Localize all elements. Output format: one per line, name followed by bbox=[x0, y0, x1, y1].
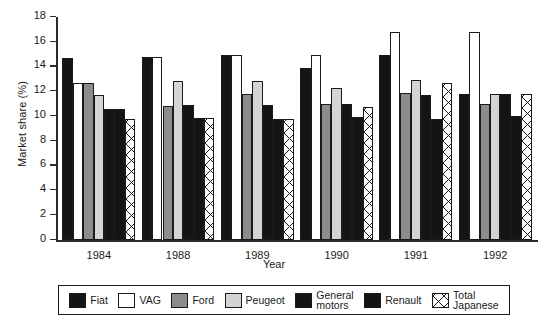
y-tick-label: 16 bbox=[34, 34, 46, 46]
bar bbox=[173, 81, 183, 240]
x-axis-title: Year bbox=[0, 258, 548, 270]
bar bbox=[459, 94, 469, 240]
y-tick-label: 0 bbox=[40, 232, 46, 244]
y-tick: 0 bbox=[50, 239, 56, 240]
y-tick: 10 bbox=[50, 115, 56, 116]
y-axis-line bbox=[56, 17, 58, 240]
legend-item[interactable]: Fiat bbox=[69, 293, 108, 308]
bar bbox=[242, 94, 252, 240]
y-tick: 18 bbox=[50, 16, 56, 17]
bar bbox=[194, 118, 204, 240]
bar bbox=[363, 107, 373, 240]
legend-label: General motors bbox=[316, 290, 353, 311]
bar bbox=[421, 95, 431, 240]
bar bbox=[500, 94, 510, 240]
y-tick: 4 bbox=[50, 189, 56, 190]
legend-swatch-vag bbox=[118, 293, 135, 308]
legend-item[interactable]: Ford bbox=[171, 293, 214, 308]
chart-legend: FiatVAGFordPeugeotGeneral motorsRenaultT… bbox=[58, 285, 510, 315]
y-tick: 8 bbox=[50, 140, 56, 141]
bar bbox=[480, 104, 490, 240]
x-axis-line bbox=[56, 240, 538, 242]
bar bbox=[183, 105, 193, 240]
bar bbox=[83, 83, 93, 240]
y-tick-label: 18 bbox=[34, 9, 46, 21]
legend-item[interactable]: Renault bbox=[364, 293, 421, 308]
bar bbox=[163, 106, 173, 240]
legend-item[interactable]: VAG bbox=[118, 293, 160, 308]
bar bbox=[342, 104, 352, 240]
bar bbox=[331, 88, 341, 240]
legend-item[interactable]: Peugeot bbox=[225, 293, 285, 308]
bar bbox=[252, 81, 262, 240]
bar-group bbox=[379, 17, 452, 240]
bar bbox=[521, 94, 531, 240]
bar bbox=[411, 80, 421, 240]
bar bbox=[62, 58, 72, 240]
y-tick: 16 bbox=[50, 41, 56, 42]
plot-area: 024681012141618 198419881989199019911992 bbox=[56, 17, 538, 240]
bar bbox=[204, 118, 214, 240]
legend-label: Peugeot bbox=[246, 295, 285, 306]
bar bbox=[490, 94, 500, 240]
bar bbox=[442, 83, 452, 240]
bar bbox=[511, 116, 521, 240]
bar bbox=[273, 119, 283, 240]
y-axis-title: Market share (%) bbox=[16, 44, 28, 204]
bar-group bbox=[221, 17, 294, 240]
legend-label: Ford bbox=[192, 295, 214, 306]
bar bbox=[104, 109, 114, 240]
y-tick-label: 4 bbox=[40, 182, 46, 194]
legend-label: Fiat bbox=[90, 295, 108, 306]
bar bbox=[400, 93, 410, 240]
y-tick-label: 12 bbox=[34, 83, 46, 95]
bar bbox=[469, 32, 479, 240]
bar bbox=[114, 109, 124, 240]
bar-group bbox=[459, 17, 532, 240]
bar bbox=[311, 55, 321, 240]
bar bbox=[431, 119, 441, 240]
y-tick: 14 bbox=[50, 65, 56, 66]
legend-swatch-peugeot bbox=[225, 293, 242, 308]
y-tick-label: 8 bbox=[40, 133, 46, 145]
y-tick-label: 14 bbox=[34, 58, 46, 70]
legend-label: Renault bbox=[385, 295, 421, 306]
bar bbox=[300, 68, 310, 240]
legend-item[interactable]: Total Japanese bbox=[432, 290, 499, 311]
bar bbox=[390, 32, 400, 240]
y-tick: 12 bbox=[50, 90, 56, 91]
bar bbox=[152, 57, 162, 240]
legend-item[interactable]: General motors bbox=[295, 290, 353, 311]
bar bbox=[283, 119, 293, 240]
legend-swatch-japanese bbox=[432, 293, 449, 308]
bar-group bbox=[142, 17, 215, 240]
bar bbox=[263, 105, 273, 240]
bar-group bbox=[300, 17, 373, 240]
bar bbox=[321, 104, 331, 240]
bar bbox=[352, 117, 362, 240]
legend-swatch-fiat bbox=[69, 293, 86, 308]
bar-group bbox=[62, 17, 135, 240]
bar bbox=[125, 119, 135, 240]
legend-swatch-renault bbox=[364, 293, 381, 308]
legend-label: Total Japanese bbox=[453, 290, 499, 311]
legend-label: VAG bbox=[139, 295, 160, 306]
bar bbox=[94, 95, 104, 240]
y-tick: 2 bbox=[50, 214, 56, 215]
legend-swatch-ford bbox=[171, 293, 188, 308]
bar bbox=[221, 55, 231, 240]
bar bbox=[142, 57, 152, 240]
bar-chart-figure: Market share (%) 024681012141618 1984198… bbox=[0, 0, 548, 327]
bar bbox=[379, 55, 389, 240]
y-tick-label: 6 bbox=[40, 157, 46, 169]
y-tick-label: 2 bbox=[40, 207, 46, 219]
y-tick-label: 10 bbox=[34, 108, 46, 120]
bar bbox=[231, 55, 241, 240]
legend-swatch-gm bbox=[295, 293, 312, 308]
y-tick: 6 bbox=[50, 164, 56, 165]
bar bbox=[73, 83, 83, 240]
